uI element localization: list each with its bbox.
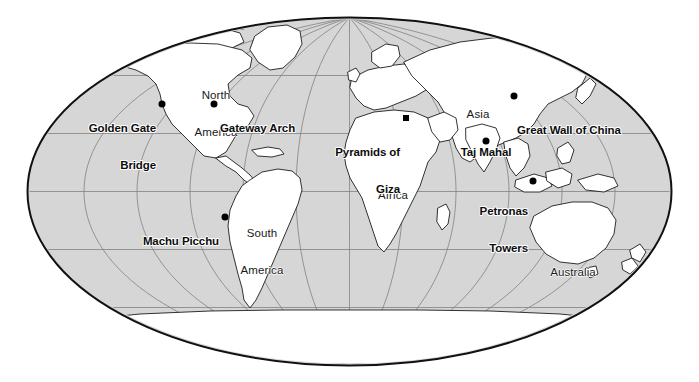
world-map-figure: North America South America Africa Asia …	[0, 0, 699, 382]
landmark-label-machu-picchu-line1: Machu Picchu	[143, 235, 219, 247]
marker-machu-picchu[interactable]	[222, 214, 229, 221]
landmark-label-golden-gate-bridge-line1: Golden Gate	[89, 122, 156, 134]
landmark-label-pyramids-of-giza-line1: Pyramids of	[335, 146, 400, 158]
landmark-label-petronas-towers[interactable]: Petronas Towers	[480, 181, 528, 279]
map-label-layer: North America South America Africa Asia …	[0, 0, 699, 382]
landmark-label-pyramids-of-giza[interactable]: Pyramids of Giza	[335, 122, 400, 220]
marker-gateway-arch[interactable]	[211, 101, 218, 108]
continent-label-south-america-line2: America	[241, 264, 284, 276]
marker-pyramids-of-giza[interactable]	[403, 115, 409, 121]
landmark-label-golden-gate-bridge[interactable]: Golden Gate Bridge	[89, 98, 156, 196]
landmark-label-gateway-arch-line1: Gateway Arch	[220, 122, 295, 134]
landmark-label-gateway-arch[interactable]: Gateway Arch	[220, 98, 295, 159]
marker-petronas-towers[interactable]	[530, 178, 537, 185]
landmark-label-taj-mahal-line1: Taj Mahal	[461, 146, 512, 158]
marker-great-wall-of-china[interactable]	[511, 93, 518, 100]
marker-taj-mahal[interactable]	[483, 138, 490, 145]
landmark-label-great-wall-of-china[interactable]: Great Wall of China	[517, 100, 621, 161]
marker-golden-gate-bridge[interactable]	[159, 101, 166, 108]
continent-label-australia: Australia	[550, 242, 596, 303]
landmark-label-machu-picchu[interactable]: Machu Picchu	[143, 211, 219, 272]
continent-label-south-america: South America	[241, 203, 284, 301]
landmark-label-taj-mahal[interactable]: Taj Mahal	[461, 122, 512, 183]
landmark-label-pyramids-of-giza-line2: Giza	[335, 183, 400, 195]
continent-label-asia-line1: Asia	[467, 108, 490, 120]
continent-label-australia-line1: Australia	[550, 266, 596, 278]
continent-label-south-america-line1: South	[241, 227, 284, 239]
landmark-label-golden-gate-bridge-line2: Bridge	[89, 159, 156, 171]
landmark-label-petronas-towers-line1: Petronas	[480, 205, 528, 217]
landmark-label-petronas-towers-line2: Towers	[480, 242, 528, 254]
landmark-label-great-wall-of-china-line1: Great Wall of China	[517, 124, 621, 136]
